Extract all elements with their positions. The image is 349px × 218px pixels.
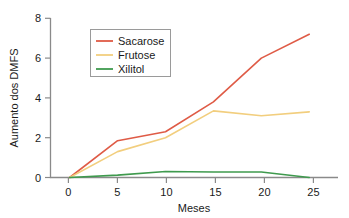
legend-label-xilitol: Xilitol (118, 63, 144, 75)
x-axis-title: Meses (178, 202, 211, 214)
legend-label-sacarose: Sacarose (118, 35, 164, 47)
x-tick-label-20: 20 (258, 186, 270, 198)
y-tick-label-6: 6 (35, 52, 41, 64)
x-tick-label-15: 15 (209, 186, 221, 198)
y-tick-label-0: 0 (35, 172, 41, 184)
x-tick-label-10: 10 (160, 186, 172, 198)
y-tick-label-8: 8 (35, 12, 41, 24)
legend-label-frutose: Frutose (118, 49, 155, 61)
chart-background (0, 0, 349, 218)
legend: Sacarose Frutose Xilitol (91, 30, 171, 77)
y-tick-label-4: 4 (35, 92, 41, 104)
x-tick-label-5: 5 (114, 186, 120, 198)
chart-canvas: 0 2 4 6 8 0 5 10 15 20 25 Meses Aumento … (0, 0, 349, 218)
x-tick-label-25: 25 (307, 186, 319, 198)
y-tick-label-2: 2 (35, 132, 41, 144)
y-axis-title: Aumento dos DMFS (8, 48, 20, 147)
line-chart-figure: 0 2 4 6 8 0 5 10 15 20 25 Meses Aumento … (0, 0, 349, 218)
x-tick-label-0: 0 (65, 186, 71, 198)
